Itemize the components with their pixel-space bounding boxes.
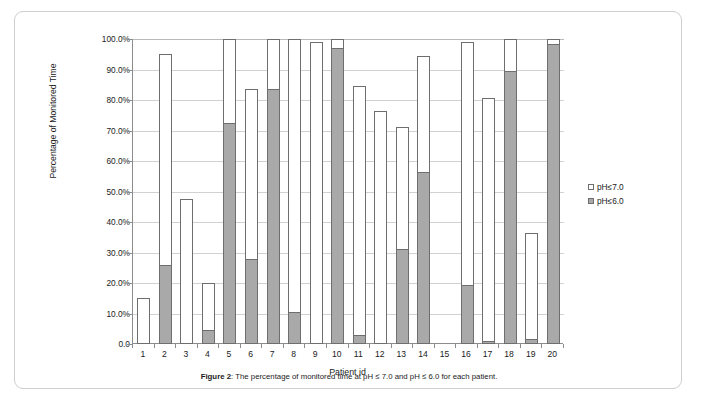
y-tick-label: 30.0%: [50, 249, 130, 257]
bar-ph6: [267, 89, 280, 344]
x-tick-mark: [218, 344, 219, 348]
figure-caption: Figure 2: The percentage of monitored ti…: [15, 372, 683, 381]
bar-group: [267, 39, 280, 344]
bar-group: [439, 39, 452, 344]
bar-group: [331, 39, 344, 344]
bar-chart: Percentage of Monitored Time 0.010.0%20.…: [15, 12, 683, 390]
chart-legend: pH≤7.0 pH≤6.0: [588, 180, 624, 208]
plot-area: [132, 39, 563, 344]
x-tick-mark: [369, 344, 370, 348]
bar-group: [396, 39, 409, 344]
x-tick-label: 20: [539, 349, 565, 359]
bar-ph7: [525, 233, 538, 344]
x-tick-mark: [412, 344, 413, 348]
x-tick-mark: [326, 344, 327, 348]
bar-ph6: [331, 48, 344, 344]
bar-ph6: [396, 249, 409, 344]
bar-group: [288, 39, 301, 344]
legend-swatch-ph7-icon: [588, 184, 594, 190]
y-tick-label: 90.0%: [50, 66, 130, 74]
y-tick-label: 40.0%: [50, 218, 130, 226]
bar-ph7: [374, 111, 387, 344]
x-tick-mark: [175, 344, 176, 348]
x-tick-mark: [348, 344, 349, 348]
bar-ph7: [482, 98, 495, 344]
caption-text: The percentage of monitored time at pH ≤…: [235, 372, 497, 381]
y-tick-label: 80.0%: [50, 96, 130, 104]
bar-group: [137, 39, 150, 344]
x-tick-mark: [563, 344, 564, 348]
legend-label-ph7: pH≤7.0: [597, 182, 624, 192]
bar-group: [180, 39, 193, 344]
y-tick-label: 10.0%: [50, 310, 130, 318]
bar-group: [159, 39, 172, 344]
bar-group: [417, 39, 430, 344]
bar-ph6: [159, 265, 172, 344]
bar-group: [374, 39, 387, 344]
y-tick-label: 60.0%: [50, 157, 130, 165]
x-tick-mark: [240, 344, 241, 348]
x-tick-mark: [261, 344, 262, 348]
x-tick-mark: [498, 344, 499, 348]
x-tick-mark: [304, 344, 305, 348]
bar-ph6: [417, 172, 430, 344]
bar-ph6: [353, 335, 366, 344]
caption-label: Figure 2: [201, 372, 231, 381]
y-tick-label: 50.0%: [50, 188, 130, 196]
bar-ph7: [288, 39, 301, 344]
bar-group: [202, 39, 215, 344]
bar-ph6: [504, 71, 517, 344]
x-tick-mark: [455, 344, 456, 348]
bar-ph6: [245, 259, 258, 344]
x-tick-mark: [132, 344, 133, 348]
x-tick-mark: [391, 344, 392, 348]
x-tick-mark: [434, 344, 435, 348]
bar-ph7: [137, 298, 150, 344]
figure-page: Percentage of Monitored Time 0.010.0%20.…: [14, 11, 682, 389]
bar-ph6: [547, 44, 560, 344]
bar-group: [310, 39, 323, 344]
bar-group: [504, 39, 517, 344]
x-tick-mark: [520, 344, 521, 348]
bar-ph7: [180, 199, 193, 344]
legend-swatch-ph6-icon: [588, 198, 594, 204]
x-tick-mark: [154, 344, 155, 348]
x-tick-mark: [541, 344, 542, 348]
bar-ph6: [202, 330, 215, 344]
bar-group: [547, 39, 560, 344]
y-tick-label: 0.0: [50, 340, 130, 348]
bar-ph6: [288, 312, 301, 344]
bar-ph6: [223, 123, 236, 344]
legend-item-ph6: pH≤6.0: [588, 194, 624, 208]
bar-group: [223, 39, 236, 344]
x-tick-mark: [477, 344, 478, 348]
bar-group: [482, 39, 495, 344]
bar-group: [245, 39, 258, 344]
x-tick-mark: [283, 344, 284, 348]
bar-ph6: [461, 285, 474, 344]
legend-item-ph7: pH≤7.0: [588, 180, 624, 194]
bar-ph7: [353, 86, 366, 344]
bar-series-container: [133, 39, 564, 344]
bar-group: [461, 39, 474, 344]
bar-ph7: [310, 42, 323, 344]
x-tick-mark: [197, 344, 198, 348]
bar-group: [525, 39, 538, 344]
y-tick-label: 100.0%: [50, 35, 130, 43]
bar-ph6: [525, 339, 538, 344]
legend-label-ph6: pH≤6.0: [597, 196, 624, 206]
bar-group: [353, 39, 366, 344]
y-tick-label: 20.0%: [50, 279, 130, 287]
y-tick-label: 70.0%: [50, 127, 130, 135]
bar-ph6: [482, 341, 495, 344]
